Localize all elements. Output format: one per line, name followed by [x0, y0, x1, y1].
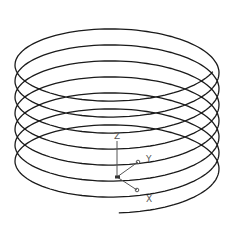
helix-wireframe: Z Y X: [0, 0, 233, 234]
y-axis-label: Y: [145, 154, 152, 164]
z-axis-label: Z: [114, 131, 120, 141]
x-axis-line: [117, 177, 137, 190]
ucs-icon: Z Y X: [114, 131, 152, 204]
cad-viewport[interactable]: Z Y X: [0, 0, 233, 234]
x-axis-label: X: [146, 194, 152, 204]
helix-curve: [15, 29, 219, 213]
ucs-origin-marker: [115, 176, 120, 179]
